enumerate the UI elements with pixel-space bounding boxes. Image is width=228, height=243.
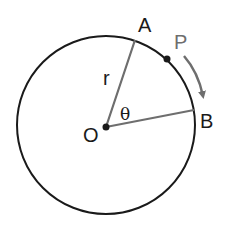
label-r: r bbox=[103, 67, 110, 89]
label-theta: θ bbox=[120, 104, 130, 124]
center-point-o bbox=[103, 124, 110, 131]
moving-point-p bbox=[164, 56, 171, 63]
label-b: B bbox=[200, 110, 213, 132]
label-p: P bbox=[174, 31, 187, 53]
label-a: A bbox=[138, 14, 152, 36]
circle-diagram: A B P O r θ bbox=[0, 0, 228, 243]
label-o: O bbox=[83, 124, 99, 146]
